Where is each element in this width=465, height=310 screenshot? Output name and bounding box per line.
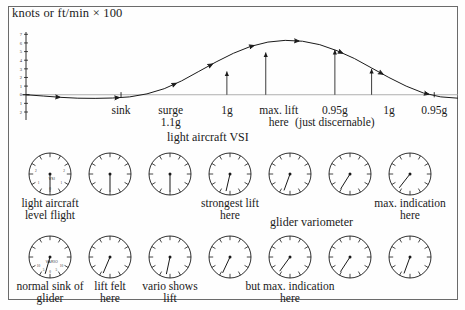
dial-graduation [332,182,336,184]
dial-needle [404,257,410,273]
dial-graduation [392,247,396,249]
dial-graduation [298,272,300,276]
dial-graduation [298,156,300,160]
heading-light-aircraft-vsi: light aircraft VSI [167,130,249,145]
dial-caption-line2: here [345,209,465,221]
flow-arrowhead [114,95,119,100]
dial-graduation [65,265,69,267]
dial-needle-hub [289,256,292,259]
dial-graduation [125,182,129,184]
dial-graduation [212,265,216,267]
figure-page: knots or ft/min × 100 7654321012 sinksur… [0,0,465,310]
dial-graduation [280,189,282,193]
dial-graduation [160,272,162,276]
dial-needle [340,257,350,272]
dial-graduation [118,189,120,193]
dial-needle-hub [169,173,172,176]
dial-graduation [65,164,69,166]
dial-graduation [340,272,342,276]
dial-needle-hub [109,256,112,259]
dial-face-number: 10 [37,264,41,268]
dial-needle-hub [169,256,172,259]
vario-dial [266,233,314,281]
vario-dial [326,233,374,281]
dial-graduation [245,247,249,249]
dial-graduation [152,247,156,249]
flow-arrowhead [424,91,430,96]
dial-graduation [340,189,342,193]
dial-graduation [100,156,102,160]
dial-face-number: 2 [63,169,65,173]
dial-graduation [118,239,120,243]
vario-dial [206,233,254,281]
dial-graduation [125,164,129,166]
vario-dial [386,233,434,281]
dial-graduation [358,272,360,276]
dial-graduation [40,272,42,276]
vario-dial [146,233,194,281]
g-load-marker [370,69,374,95]
dial-graduation [185,182,189,184]
dial-face-number: 2 [35,169,37,173]
g-load-marker [264,52,268,94]
dial-graduation [238,239,240,243]
dial-graduation [245,265,249,267]
vsi-dial [146,150,194,198]
dial-graduation [220,189,222,193]
dial-caption-line2: here [225,292,355,304]
dial-graduation [425,247,429,249]
dial-graduation [32,265,36,267]
dial-graduation [332,247,336,249]
dial-graduation [178,239,180,243]
dial-graduation [305,265,309,267]
dial-graduation [272,247,276,249]
vsi-dial [326,150,374,198]
dial-graduation [160,239,162,243]
dial-graduation [272,182,276,184]
dial-graduation [358,189,360,193]
dial-graduation [65,182,69,184]
dial-caption: light aircraftlevel flight [0,197,115,221]
dial-needle-hub [49,256,52,259]
vsi-dial [86,150,134,198]
dial-graduation [92,182,96,184]
dial-caption-line1: strongest lift [165,197,295,209]
dial-face-number: 5 [43,268,45,272]
y-tick-label: 2 [20,110,23,115]
dial-graduation [58,156,60,160]
g-load-marker [225,71,229,94]
dial-graduation [160,156,162,160]
dial-graduation [418,189,420,193]
y-tick-label: 5 [20,49,23,54]
dial-graduation [152,265,156,267]
flow-arrowhead [207,62,213,68]
dial-graduation [418,239,420,243]
dial-caption: vario showslift [105,280,235,304]
dial-graduation [118,156,120,160]
dial-needle [341,174,350,189]
dial-face-number: 10 [60,264,64,268]
dial-graduation [152,164,156,166]
y-tick-label: 1 [20,101,23,106]
dial-graduation [332,164,336,166]
g-load-marker [333,50,337,95]
dial-needle [399,174,410,188]
dial-graduation [32,164,36,166]
dial-graduation [185,265,189,267]
vario-dial: 1050510VARIO [26,233,74,281]
dial-graduation [125,247,129,249]
vsi-dial: 01212VSI [26,150,74,198]
dial-needle-hub [229,256,232,259]
dial-graduation [40,156,42,160]
y-tick-label: 0 [20,92,23,97]
vsi-dial [266,150,314,198]
dial-graduation [40,239,42,243]
dial-graduation [212,182,216,184]
dial-graduation [400,272,402,276]
dial-graduation [280,156,282,160]
dial-graduation [185,164,189,166]
dial-caption-line1: vario shows [105,280,235,292]
dial-graduation [65,247,69,249]
dial-graduation [58,189,60,193]
dial-graduation [340,239,342,243]
